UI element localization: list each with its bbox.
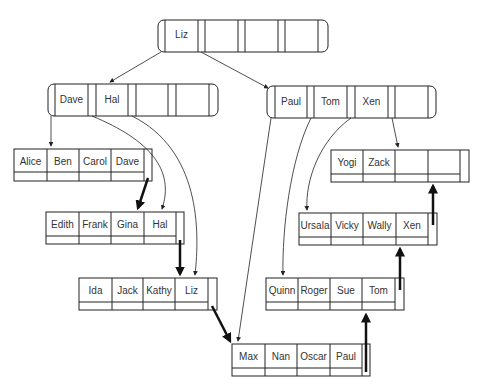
leaf-key: Max	[232, 350, 265, 364]
leaf-key: Tom	[362, 284, 395, 298]
leaf-key: Zack	[363, 156, 395, 170]
leaf-key: Sue	[330, 284, 362, 298]
internal-key: Tom	[314, 95, 347, 109]
leaf-key: Ida	[79, 284, 112, 298]
leaf-key: Yogi	[331, 156, 363, 170]
leaf-key: Ben	[47, 155, 79, 169]
leaf-key: Oscar	[297, 350, 330, 364]
leaf-key: Hal	[144, 218, 176, 232]
internal-key: Dave	[55, 93, 88, 107]
leaf-key: Vicky	[331, 219, 363, 233]
leaf-key: Roger	[298, 284, 330, 298]
leaf-key: Xen	[396, 219, 428, 233]
internal-key: Xen	[355, 95, 388, 109]
leaf-key: Frank	[79, 218, 111, 232]
leaf-key: Dave	[111, 155, 144, 169]
internal-key: Hal	[96, 93, 128, 107]
leaf-key: Liz	[175, 284, 208, 298]
leaf-key: Ursala	[299, 219, 331, 233]
tree-diagram	[0, 0, 481, 391]
root-key: Liz	[165, 28, 198, 42]
leaf-key: Jack	[112, 284, 143, 298]
leaf-key: Quinn	[266, 284, 298, 298]
leaf-key: Paul	[330, 350, 362, 364]
internal-key: Paul	[275, 95, 307, 109]
leaf-key: Nan	[265, 350, 297, 364]
leaf-key: Wally	[363, 219, 396, 233]
leaf-key: Kathy	[143, 284, 175, 298]
leaf-key: Gina	[111, 218, 144, 232]
leaf-key: Alice	[14, 155, 47, 169]
leaf-key: Carol	[79, 155, 111, 169]
leaf-key: Edith	[46, 218, 79, 232]
